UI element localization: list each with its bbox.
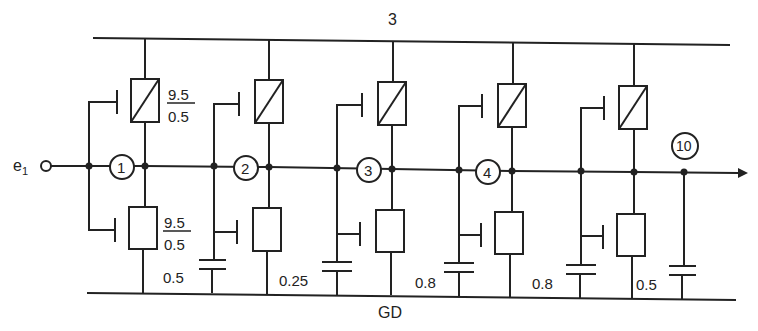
input-label: e1 <box>13 157 28 177</box>
stage-3-gate-and-cap: 0.25 <box>279 93 362 295</box>
load-gate-wire <box>89 102 117 166</box>
cap-label: 0.25 <box>279 272 308 289</box>
vdd-rail <box>93 38 730 45</box>
cap-label: 0.8 <box>532 275 553 292</box>
ground-rail <box>87 293 736 300</box>
node-label: 3 <box>364 162 372 179</box>
node-label: 1 <box>117 159 125 176</box>
driver-transistor <box>129 207 157 249</box>
stage-5-gate-and-cap: 0.8 <box>532 96 604 298</box>
stage-3: 3 <box>357 41 406 295</box>
stage-4-gate-and-cap: 0.8 <box>415 94 482 297</box>
ring-oscillator-schematic: 3 GD e1 1 9.5 0.5 9.5 0.5 0.5 <box>0 0 758 331</box>
cap-label: 0.5 <box>163 269 184 286</box>
driver-ratio-bottom: 0.5 <box>164 236 185 253</box>
output-node-label: 10 <box>676 138 692 154</box>
load-ratio-top: 9.5 <box>168 86 189 103</box>
driver-ratio-top: 9.5 <box>164 214 185 231</box>
cap-label: 0.8 <box>415 274 436 291</box>
cap-label: 0.5 <box>636 276 657 293</box>
node-label: 4 <box>483 164 491 181</box>
output-node: 10 0.5 <box>634 133 748 299</box>
output-arrow-icon <box>738 168 748 178</box>
node-label: 2 <box>241 160 249 177</box>
driver-gate-wire <box>89 166 115 230</box>
input-terminal <box>41 161 51 171</box>
load-ratio-bottom: 0.5 <box>168 108 189 125</box>
vdd-rail-label: 3 <box>388 11 397 28</box>
ground-rail-label: GD <box>378 304 402 321</box>
